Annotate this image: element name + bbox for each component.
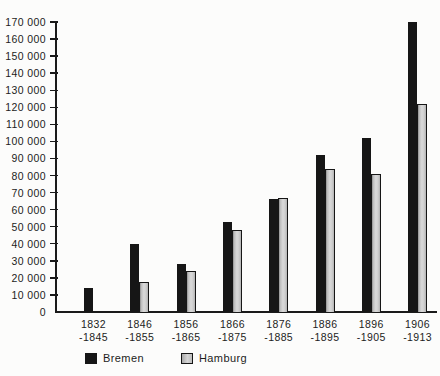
bar-bremen-1886 (316, 155, 325, 312)
y-tick-label: 110 000 (0, 118, 46, 130)
y-tick-label: 140 000 (0, 67, 46, 79)
y-tick (50, 72, 58, 73)
y-tick (50, 21, 58, 22)
bar-bremen-1876 (269, 199, 278, 312)
y-tick (50, 158, 58, 159)
y-tick-label: 20 000 (0, 272, 46, 284)
y-tick-label: 170 000 (0, 16, 46, 28)
y-tick (50, 38, 58, 39)
y-tick (50, 90, 58, 91)
x-tick-label: 1886-1895 (301, 318, 349, 344)
legend-swatch-bremen-icon (85, 353, 97, 364)
bar-bremen-1906 (408, 22, 417, 312)
x-tick-label: 1876-1885 (255, 318, 303, 344)
bar-bremen-1866 (223, 222, 232, 312)
legend-swatch-hamburg-icon (181, 353, 193, 364)
y-tick-label: 90 000 (0, 152, 46, 164)
y-tick-label: 30 000 (0, 255, 46, 267)
y-tick-label: 120 000 (0, 101, 46, 113)
bar-hamburg-1896 (371, 174, 381, 312)
y-axis-line (55, 21, 57, 313)
legend-label-hamburg: Hamburg (199, 352, 247, 364)
y-tick (50, 107, 58, 108)
y-tick-label: 80 000 (0, 170, 46, 182)
bar-hamburg-1846 (139, 282, 149, 312)
y-tick-label: 40 000 (0, 238, 46, 250)
bar-hamburg-1876 (278, 198, 288, 312)
x-tick-label: 1846-1855 (116, 318, 164, 344)
y-tick-label: 50 000 (0, 221, 46, 233)
bar-hamburg-1856 (186, 271, 196, 312)
y-tick (50, 124, 58, 125)
bar-bremen-1832 (84, 288, 93, 312)
bar-bremen-1846 (130, 244, 139, 312)
y-tick-label: 10 000 (0, 289, 46, 301)
y-tick (50, 55, 58, 56)
y-tick-label: 60 000 (0, 204, 46, 216)
x-tick-label: 1856-1865 (162, 318, 210, 344)
y-tick (50, 294, 58, 295)
legend-label-bremen: Bremen (103, 352, 144, 364)
y-tick (50, 226, 58, 227)
y-tick-label: 160 000 (0, 33, 46, 45)
y-tick (50, 141, 58, 142)
bar-hamburg-1906 (417, 104, 427, 312)
y-tick (50, 277, 58, 278)
y-tick (50, 175, 58, 176)
y-tick (50, 192, 58, 193)
y-tick-label: 130 000 (0, 84, 46, 96)
bar-bremen-1896 (362, 138, 371, 312)
bar-hamburg-1866 (232, 230, 242, 312)
y-tick (50, 209, 58, 210)
y-tick (50, 260, 58, 261)
x-tick-label: 1866-1875 (208, 318, 256, 344)
y-tick-label: 70 000 (0, 187, 46, 199)
x-tick-label: 1896-1905 (347, 318, 395, 344)
y-tick-label: 0 (0, 306, 46, 318)
bar-bremen-1856 (177, 264, 186, 312)
y-tick-label: 150 000 (0, 50, 46, 62)
x-tick-label: 1906-1913 (394, 318, 440, 344)
bar-chart: 170 000160 000150 000140 000130 000120 0… (0, 0, 440, 376)
legend: Bremen Hamburg (0, 351, 440, 367)
y-tick-label: 100 000 (0, 135, 46, 147)
x-tick-label: 1832-1845 (70, 318, 118, 344)
y-tick (50, 243, 58, 244)
bar-hamburg-1886 (325, 169, 335, 312)
